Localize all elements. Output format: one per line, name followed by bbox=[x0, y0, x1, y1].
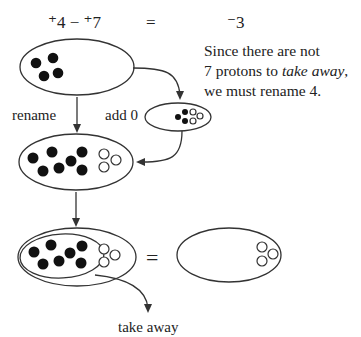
proton-icon bbox=[77, 241, 88, 252]
proton-icon bbox=[38, 166, 49, 177]
proton-icon bbox=[66, 156, 77, 167]
equals-sign: = bbox=[146, 245, 158, 270]
proton-icon bbox=[175, 114, 181, 120]
proton-icon bbox=[182, 118, 188, 124]
electron-icon bbox=[257, 242, 267, 252]
arrow-head-icon bbox=[176, 91, 184, 100]
equation-equals: = bbox=[146, 13, 156, 32]
electron-icon bbox=[99, 244, 109, 254]
arrow-to-add-zero bbox=[133, 68, 180, 95]
explanation-line3: we must rename 4. bbox=[204, 82, 321, 99]
electron-icon bbox=[190, 118, 196, 124]
explanation-line1: Since there are not bbox=[204, 42, 320, 59]
rename-label: rename bbox=[12, 107, 56, 123]
proton-icon bbox=[77, 165, 88, 176]
take-away-set bbox=[18, 228, 136, 286]
electron-icon bbox=[99, 162, 109, 172]
proton-icon bbox=[53, 68, 64, 79]
proton-icon bbox=[182, 109, 188, 115]
integer-subtraction-diagram: ⁺4 − ⁺7 = ⁻3 Since there are not 7 proto… bbox=[0, 0, 361, 337]
proton-icon bbox=[38, 259, 49, 270]
arrow-head-icon bbox=[73, 124, 81, 133]
take-away-arrow bbox=[95, 275, 148, 308]
electron-icon bbox=[197, 113, 203, 119]
proton-icon bbox=[48, 53, 59, 64]
proton-icon bbox=[76, 258, 87, 269]
set-boundary bbox=[177, 228, 281, 282]
proton-icon bbox=[54, 163, 65, 174]
renamed-set bbox=[19, 134, 133, 190]
zero-pairs-set bbox=[145, 103, 211, 131]
proton-icon bbox=[39, 71, 50, 82]
result-set bbox=[177, 228, 281, 282]
proton-icon bbox=[77, 147, 88, 158]
initial-set bbox=[20, 39, 134, 95]
electron-icon bbox=[110, 250, 120, 260]
electron-icon bbox=[257, 256, 267, 266]
arrow-head-icon bbox=[136, 158, 145, 166]
take-away-label: take away bbox=[118, 319, 179, 335]
electron-icon bbox=[190, 109, 196, 115]
electron-icon bbox=[111, 155, 121, 165]
equation-result: ⁻3 bbox=[227, 13, 244, 32]
electron-icon bbox=[268, 249, 278, 259]
proton-icon bbox=[28, 153, 39, 164]
electron-icon bbox=[99, 257, 109, 267]
electron-icon bbox=[99, 149, 109, 159]
proton-icon bbox=[47, 147, 58, 158]
arrow-head-icon bbox=[72, 218, 80, 227]
arrow-head-icon bbox=[144, 304, 152, 313]
proton-icon bbox=[29, 247, 40, 258]
equation-left: ⁺4 − ⁺7 bbox=[48, 13, 102, 32]
add-zero-label: add 0 bbox=[105, 107, 138, 123]
proton-icon bbox=[65, 248, 76, 259]
proton-icon bbox=[46, 240, 57, 251]
explanation-line2: 7 protons to take away, bbox=[204, 62, 348, 79]
proton-icon bbox=[31, 58, 42, 69]
arrow-to-renamed bbox=[142, 131, 182, 162]
proton-icon bbox=[54, 256, 65, 267]
